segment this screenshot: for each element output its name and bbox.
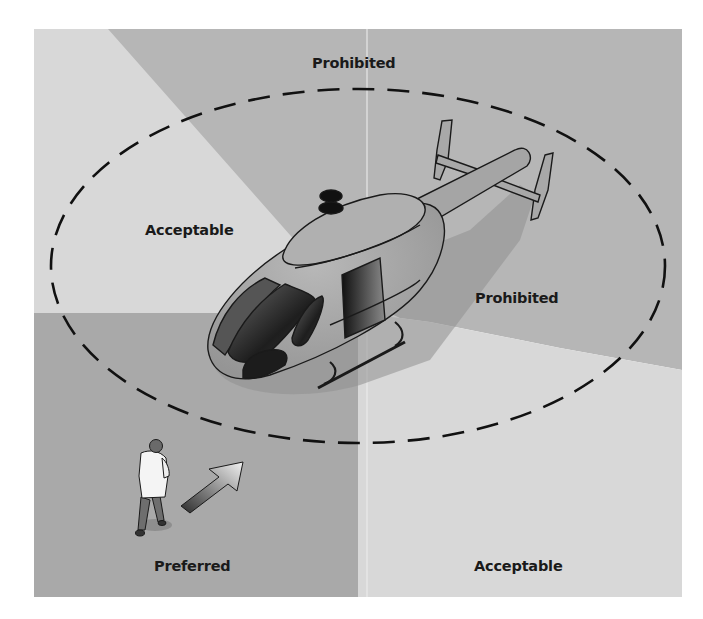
label-right-prohibited: Prohibited: [475, 290, 559, 306]
label-top-prohibited: Prohibited: [312, 55, 396, 71]
helicopter-approach-diagram: Prohibited Acceptable Prohibited Preferr…: [0, 0, 703, 619]
label-lower-right-acceptable: Acceptable: [474, 558, 563, 574]
label-lower-left-preferred: Preferred: [154, 558, 230, 574]
label-upper-left-acceptable: Acceptable: [145, 222, 234, 238]
